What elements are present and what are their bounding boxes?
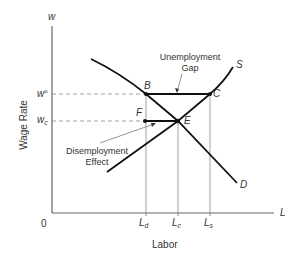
point-B [144,92,148,96]
point-C-label: C [213,89,220,99]
w-c-mark: c [44,119,48,126]
disemployment-line1: Disemployment [57,146,137,157]
w-min-mark: o [44,88,47,94]
disemployment-annotation: Disemployment Effect [57,146,137,168]
L-c-mark: c [178,222,182,229]
x-axis-title: Labor [152,240,178,250]
point-B-label: B [144,81,151,91]
L-s-label: Ls [204,218,213,229]
unemployment-gap-annotation: Unemployment Gap [150,52,230,74]
y-axis-symbol: w [48,12,55,22]
point-E-label: E [184,116,191,126]
L-d-mark: d [145,222,149,229]
disemployment-line2: Effect [57,157,137,168]
L-d-label: Ld [139,218,148,229]
L-c-label: Lc [172,218,181,229]
unemployment-gap-line1: Unemployment [150,52,230,63]
w-c-label: wc [37,115,48,126]
point-F [143,119,147,123]
disemployment-arrowhead [151,123,156,127]
w-min-label: wo [37,88,48,99]
x-axis-symbol: L [280,208,286,218]
L-s-mark: s [210,222,214,229]
y-axis-title: Wage Rate [19,95,29,155]
supply-label: S [236,60,243,70]
origin-label: 0 [41,219,47,229]
point-C [208,92,212,96]
unemployment-gap-arrowhead [175,88,179,93]
unemployment-gap-line2: Gap [150,63,230,74]
labor-market-diagram: w L 0 Wage Rate Labor wo wc Ld Lc Ls S D… [0,0,294,260]
point-E [176,119,180,123]
point-F-label: F [136,108,142,118]
demand-label: D [240,180,247,190]
